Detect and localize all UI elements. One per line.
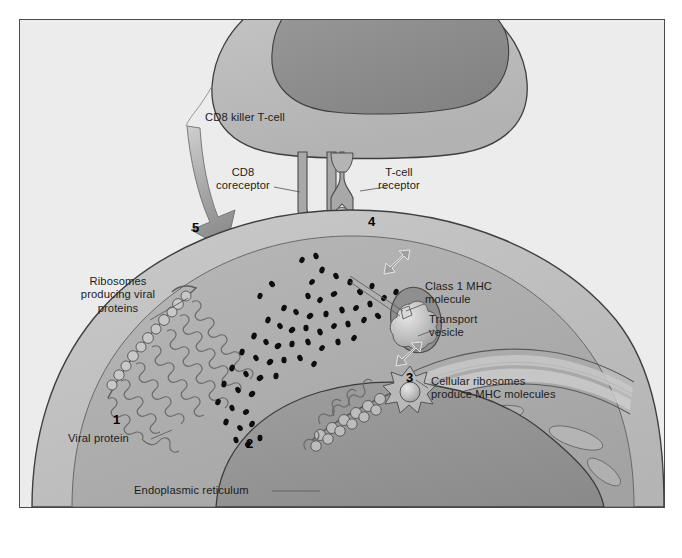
- t-cell-nucleus: [272, 20, 509, 114]
- t-cell-edge-line: [186, 86, 212, 126]
- cd8-killer-t-cell: [212, 20, 527, 158]
- step-number-4: 4: [368, 214, 375, 229]
- figure-canvas: Ribosomes producing viral proteins Viral…: [0, 0, 682, 558]
- step-number-3: 3: [406, 370, 413, 385]
- step-number-5: 5: [192, 220, 199, 235]
- step-number-1: 1: [113, 412, 120, 427]
- step-number-2: 2: [246, 436, 253, 451]
- diagram-artwork: [20, 20, 664, 507]
- diagram-frame: Ribosomes producing viral proteins Viral…: [19, 19, 665, 508]
